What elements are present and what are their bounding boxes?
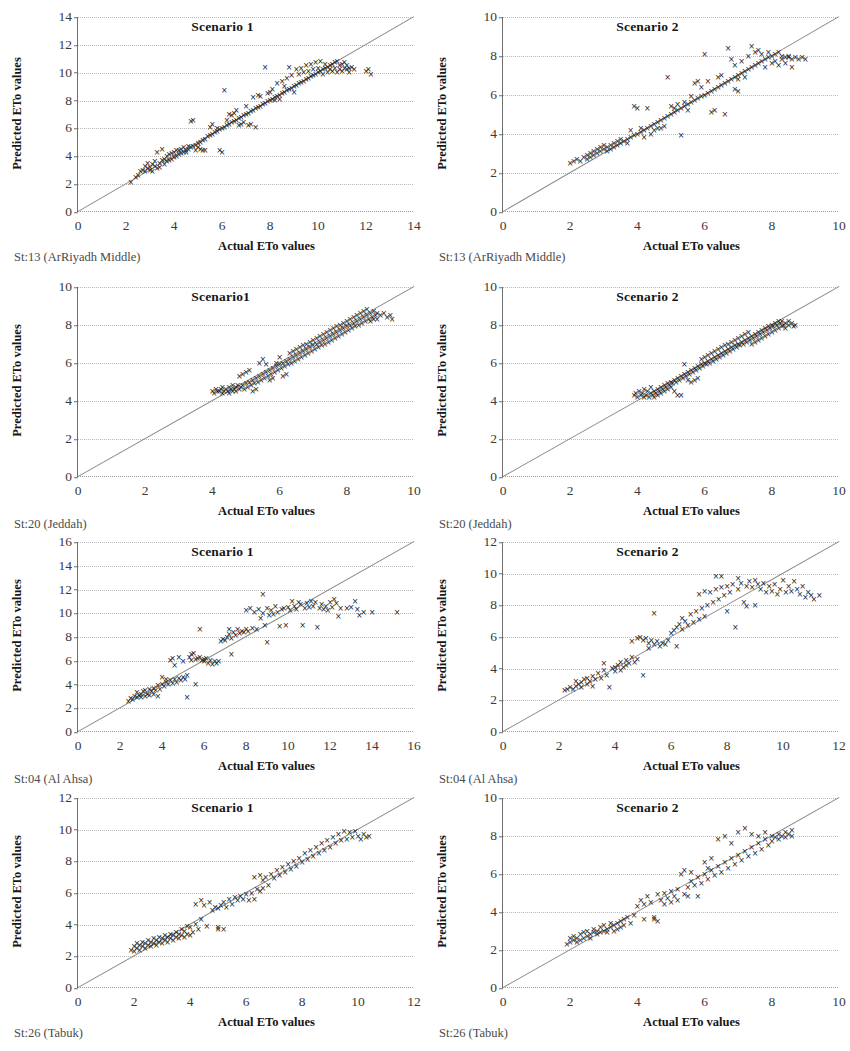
data-point: [219, 149, 226, 156]
data-point: [721, 111, 728, 118]
data-point: [718, 573, 725, 580]
x-axis-line: [503, 211, 838, 212]
data-point: [252, 124, 259, 131]
data-point: [314, 624, 321, 631]
y-tick-label: 2: [490, 943, 497, 957]
panel-title: Scenario1: [191, 289, 250, 305]
gridline: [78, 708, 413, 709]
data-point: [678, 132, 685, 139]
gridline: [78, 590, 413, 591]
plot-area: 02468100246810: [502, 17, 838, 212]
data-point: [283, 371, 290, 378]
data-point: [154, 693, 161, 700]
gridline: [503, 950, 838, 951]
x-tick-label: 0: [75, 739, 82, 753]
scatter-panel: 02468100246810Scenario1Predicted ETo val…: [0, 265, 425, 530]
data-point: [802, 56, 809, 63]
y-tick-label: 10: [59, 607, 73, 621]
data-point: [228, 651, 235, 658]
panel-title: Scenario 2: [616, 544, 678, 560]
gridline: [503, 95, 838, 96]
y-tick-label: 10: [484, 567, 498, 581]
y-axis-label: Predicted ETo values: [435, 568, 450, 704]
y-tick-label: 8: [490, 318, 497, 332]
y-tick-label: 8: [490, 49, 497, 63]
plot-area: 02468100246810: [502, 287, 838, 477]
data-point: [724, 608, 731, 615]
x-tick-label: 4: [634, 995, 641, 1009]
gridline: [503, 669, 838, 670]
scatter-panel: 02468100246810Scenario 2Predicted ETo va…: [425, 265, 850, 530]
x-axis-line: [78, 211, 413, 212]
y-tick-label: 0: [65, 725, 72, 739]
data-point: [741, 74, 748, 81]
data-point: [816, 592, 823, 599]
plot-area: 0246810121402468101214: [77, 17, 413, 212]
gridline: [503, 874, 838, 875]
x-axis-line: [78, 987, 413, 988]
y-tick-label: 6: [65, 356, 72, 370]
y-tick-label: 12: [59, 583, 73, 597]
y-tick-label: 12: [59, 791, 73, 805]
y-tick-label: 4: [65, 918, 72, 932]
data-point: [708, 855, 715, 862]
x-axis-label: Actual ETo values: [643, 504, 740, 519]
x-tick-label: 8: [768, 995, 775, 1009]
gridline: [78, 439, 413, 440]
scatter-panel: 02468101214160246810121416Scenario 1Pred…: [0, 530, 425, 780]
x-tick-label: 16: [407, 739, 421, 753]
y-tick-label: 10: [59, 823, 73, 837]
gridline: [78, 861, 413, 862]
y-axis-label: Predicted ETo values: [435, 45, 450, 181]
x-tick-label: 0: [500, 219, 507, 233]
x-tick-label: 2: [567, 219, 574, 233]
data-point: [641, 916, 648, 923]
gridline: [503, 605, 838, 606]
x-tick-label: 0: [500, 995, 507, 1009]
gridline: [503, 439, 838, 440]
x-tick-label: 6: [219, 219, 226, 233]
data-point: [257, 872, 264, 879]
x-axis-label: Actual ETo values: [643, 759, 740, 774]
x-tick-label: 4: [634, 484, 641, 498]
data-point: [215, 658, 222, 665]
data-point: [259, 591, 266, 598]
data-point: [661, 123, 668, 130]
data-point: [253, 626, 260, 633]
x-axis-line: [503, 731, 838, 732]
data-point: [634, 656, 641, 663]
y-tick-label: 4: [65, 150, 72, 164]
x-axis-label: Actual ETo values: [643, 239, 740, 254]
gridline: [503, 912, 838, 913]
y-tick-label: 10: [59, 280, 73, 294]
x-tick-label: 12: [407, 995, 421, 1009]
data-point: [704, 78, 711, 85]
data-point: [647, 899, 654, 906]
x-axis-label: Actual ETo values: [643, 1015, 740, 1030]
figure-grid: 0246810121402468101214Scenario 1Predicte…: [0, 0, 850, 1051]
y-tick-label: 10: [59, 66, 73, 80]
x-tick-label: 10: [776, 739, 790, 753]
gridline: [78, 685, 413, 686]
panel-title: Scenario 2: [616, 19, 678, 35]
gridline: [78, 925, 413, 926]
data-point: [726, 589, 733, 596]
gridline: [503, 173, 838, 174]
data-point: [202, 147, 209, 154]
x-axis-line: [78, 476, 413, 477]
x-tick-label: 10: [832, 484, 846, 498]
x-tick-label: 4: [159, 739, 166, 753]
data-point: [196, 626, 203, 633]
data-point: [673, 643, 680, 650]
data-point: [788, 833, 795, 840]
x-tick-label: 10: [832, 219, 846, 233]
y-tick-label: 0: [490, 981, 497, 995]
data-point: [286, 64, 293, 71]
y-axis-label: Predicted ETo values: [10, 824, 25, 960]
gridline: [78, 661, 413, 662]
y-tick-label: 2: [65, 177, 72, 191]
data-point: [678, 392, 685, 399]
y-tick-label: 0: [490, 725, 497, 739]
x-tick-label: 14: [365, 739, 379, 753]
data-point: [367, 71, 374, 78]
